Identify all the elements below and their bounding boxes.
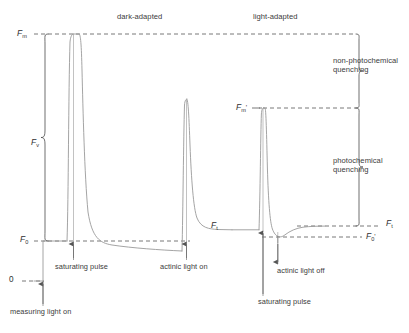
level-label-ft-left: Ft — [211, 220, 218, 230]
bracket-label-non-photochemical-quenching: non-photochemical quenching — [333, 56, 398, 75]
pq-line-1: photochemical — [333, 156, 383, 165]
npq-line-2: quenching — [333, 65, 398, 74]
bracket-label-photochemical-quenching: photochemical quenching — [333, 156, 383, 175]
fluorescence-diagram: dark-adapted light-adapted Fm Fv F0 Fm' … — [0, 0, 409, 333]
level-label-zero: 0 — [9, 275, 14, 284]
level-label-f0: F0 — [20, 234, 28, 244]
pq-line-2: quenching — [333, 165, 383, 174]
event-label-measuring-light-on: measuring light on — [10, 307, 71, 316]
level-label-fm: Fm — [17, 28, 27, 38]
event-label-actinic-light-off: actinic light off — [277, 266, 325, 275]
level-label-ft-right: Ft — [386, 218, 393, 228]
event-label-saturating-pulse-2: saturating pulse — [258, 297, 311, 306]
level-label-fm-prime: Fm' — [236, 102, 247, 112]
trace-fm-decay — [74, 34, 183, 251]
trace-actinic-decay — [187, 99, 232, 230]
fv-brace — [41, 34, 48, 241]
phase-label-light-adapted: light-adapted — [253, 12, 298, 21]
event-label-saturating-pulse-1: saturating pulse — [55, 262, 108, 271]
event-label-actinic-light-on: actinic light on — [160, 262, 208, 271]
trace-f0-plateau — [43, 241, 67, 281]
trace-saturating-pulse-1-rise — [67, 34, 74, 241]
npq-line-1: non-photochemical — [333, 56, 398, 65]
event-marker-lines — [74, 34, 278, 243]
trace-actinic-off-dip — [278, 226, 325, 237]
phase-label-dark-adapted: dark-adapted — [117, 12, 162, 21]
level-label-fv: Fv — [31, 137, 39, 147]
level-label-f0-prime: F0' — [366, 231, 376, 241]
trace-fm-prime-decay — [264, 108, 278, 236]
level-lines — [22, 34, 381, 281]
fluorescence-curve — [34, 34, 325, 281]
